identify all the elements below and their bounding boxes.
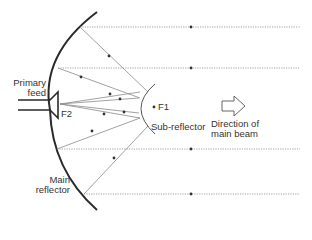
main-beam-direction-arrow xyxy=(222,96,245,116)
f1-focal-point xyxy=(153,106,156,109)
parallel-rays xyxy=(57,27,300,194)
sub-reflector-label: Sub-reflector xyxy=(151,122,205,132)
parallel-ray-markers xyxy=(190,26,193,196)
primary-feed-label: Primary feed xyxy=(2,78,46,98)
f1-label: F1 xyxy=(158,102,169,112)
direction-of-main-beam-label: Direction of main beam xyxy=(211,119,259,139)
f2-label: F2 xyxy=(61,109,72,119)
main-reflector-label: Main reflector xyxy=(2,175,70,195)
